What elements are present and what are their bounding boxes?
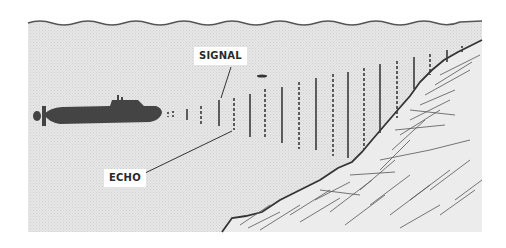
sonar-diagram: SIGNAL ECHO — [0, 0, 506, 248]
signal-label: SIGNAL — [194, 47, 247, 65]
fish-shape — [257, 75, 267, 78]
echo-label: ECHO — [104, 169, 146, 187]
